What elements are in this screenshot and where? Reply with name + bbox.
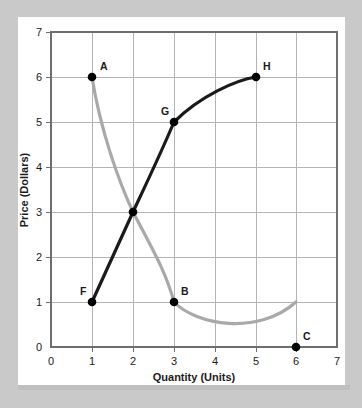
y-tick-label-6: 6 — [36, 71, 42, 83]
point-label-c: C — [303, 330, 311, 342]
x-axis-title: Quantity (Units) — [153, 371, 236, 383]
x-tick-label-1: 1 — [89, 355, 95, 367]
point-marker-equilibrium[interactable] — [129, 208, 138, 217]
point-label-f: F — [80, 285, 87, 297]
y-tick-label-7: 7 — [36, 26, 42, 38]
x-tick-label-4: 4 — [212, 355, 218, 367]
y-tick-label-4: 4 — [36, 161, 42, 173]
y-tick-label-3: 3 — [36, 206, 42, 218]
x-tick-label-7: 7 — [334, 355, 340, 367]
point-marker-h[interactable] — [252, 73, 261, 82]
x-tick-label-6: 6 — [293, 355, 299, 367]
x-tick-label-2: 2 — [130, 355, 136, 367]
point-marker-c[interactable] — [292, 343, 301, 352]
y-tick-marks — [46, 32, 51, 302]
x-tick-marks — [92, 347, 296, 352]
y-axis-title: Price (Dollars) — [18, 152, 30, 227]
point-marker-f[interactable] — [88, 298, 97, 307]
x-tick-label-0: 0 — [48, 355, 54, 367]
demand-curve — [92, 77, 296, 324]
point-label-a: A — [100, 60, 108, 72]
point-label-g: G — [161, 105, 169, 117]
point-marker-g[interactable] — [170, 118, 179, 127]
point-marker-a[interactable] — [88, 73, 97, 82]
x-tick-label-5: 5 — [253, 355, 259, 367]
supply-demand-chart: A H G F B C 0 1 2 3 4 5 6 7 0 1 2 3 4 5 … — [0, 0, 362, 408]
chart-page: A H G F B C 0 1 2 3 4 5 6 7 0 1 2 3 4 5 … — [0, 0, 362, 408]
y-tick-label-1: 1 — [36, 296, 42, 308]
y-tick-label-0: 0 — [36, 341, 42, 353]
point-label-b: B — [181, 285, 189, 297]
point-label-h: H — [263, 60, 271, 72]
y-tick-label-2: 2 — [36, 251, 42, 263]
x-tick-label-3: 3 — [171, 355, 177, 367]
point-marker-b[interactable] — [170, 298, 179, 307]
y-tick-label-5: 5 — [36, 116, 42, 128]
